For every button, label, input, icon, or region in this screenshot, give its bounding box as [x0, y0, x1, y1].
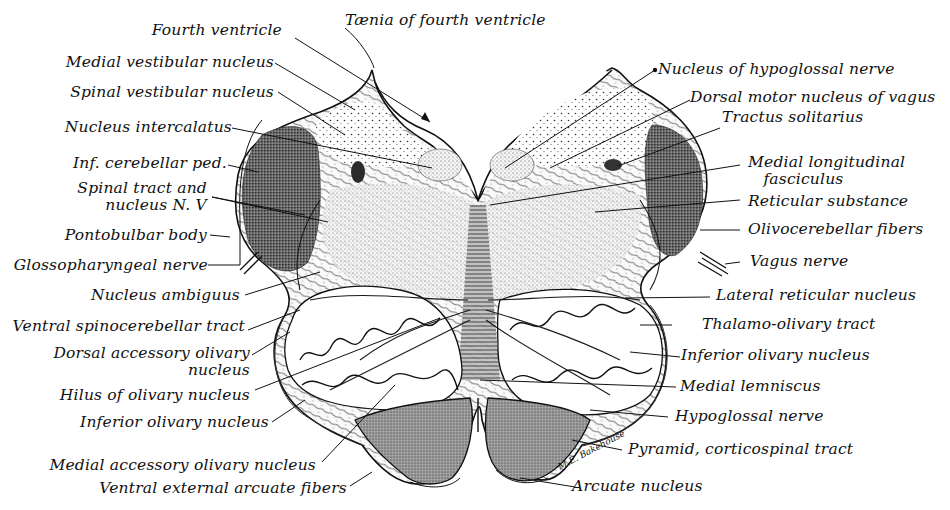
olive-right [498, 289, 663, 414]
label-medial-vestibular-nucleus: Medial vestibular nucleus [66, 54, 274, 71]
label-reticular-substance: Reticular substance [748, 193, 908, 210]
label-hilus-of-olivary-nucleus: Hilus of olivary nucleus [60, 387, 250, 404]
vagus-nerve-rootlets [698, 252, 728, 276]
label-tractus-solitarius: Tractus solitarius [722, 109, 863, 126]
label-inferior-olivary-nucleus-left: Inferior olivary nucleus [80, 414, 269, 431]
label-hypoglossal-nerve: Hypoglossal nerve [675, 408, 824, 425]
label-thalamo-olivary-tract: Thalamo-olivary tract [702, 316, 875, 333]
label-fourth-ventricle: Fourth ventricle [152, 22, 282, 39]
label-dorsal-motor-nucleus-of-vagus: Dorsal motor nucleus of vagus [690, 89, 935, 106]
medulla-cross-section-figure: M.E. Bakehouse Tænia of fourth ventricle… [0, 0, 950, 510]
label-inferior-olivary-nucleus-right: Inferior olivary nucleus [681, 347, 870, 364]
hypoglossal-nucleus-left [418, 149, 462, 181]
label-vagus-nerve: Vagus nerve [750, 253, 849, 270]
label-spinal-tract-nucleus-v: Spinal tract and nucleus N. V [77, 180, 207, 214]
label-taenia-of-fourth-ventricle: Tænia of fourth ventricle [345, 12, 546, 29]
label-lateral-reticular-nucleus: Lateral reticular nucleus [716, 287, 916, 304]
label-nucleus-ambiguus: Nucleus ambiguus [91, 287, 240, 304]
label-inf-cerebellar-ped: Inf. cerebellar ped. [73, 155, 227, 172]
label-dorsal-accessory-olivary-nucleus: Dorsal accessory olivary nucleus [53, 345, 250, 379]
label-medial-accessory-olivary-nucleus: Medial accessory olivary nucleus [49, 457, 316, 474]
label-olivocerebellar-fibers: Olivocerebellar fibers [748, 221, 923, 238]
label-pyramid-corticospinal-tract: Pyramid, corticospinal tract [628, 441, 853, 458]
inf-cerebellar-peduncle-left [242, 127, 320, 271]
label-glossopharyngeal-nerve: Glossopharyngeal nerve [14, 257, 208, 274]
label-ventral-spinocerebellar-tract: Ventral spinocerebellar tract [13, 318, 245, 335]
label-spinal-vestibular-nucleus: Spinal vestibular nucleus [70, 84, 274, 101]
label-nucleus-of-hypoglossal-nerve: Nucleus of hypoglossal nerve [658, 61, 895, 78]
label-arcuate-nucleus: Arcuate nucleus [572, 478, 703, 495]
label-ventral-external-arcuate-fibers: Ventral external arcuate fibers [99, 480, 347, 497]
label-medial-longitudinal-fasciculus: Medial longitudinal fasciculus [748, 154, 905, 188]
label-pontobulbar-body: Pontobulbar body [65, 227, 207, 244]
label-nucleus-intercalatus: Nucleus intercalatus [65, 119, 232, 136]
label-medial-lemniscus: Medial lemniscus [680, 378, 821, 395]
